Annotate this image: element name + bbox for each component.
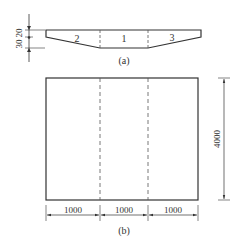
dim-width-3: 1000 (164, 205, 183, 215)
region-label-1: 1 (122, 33, 127, 44)
caption-a: (a) (118, 55, 129, 67)
dim-top-thickness: 20 (14, 28, 24, 38)
section-view: 2 1 3 20 30 (a) (14, 14, 201, 67)
dim-width-2: 1000 (115, 205, 134, 215)
region-label-2: 2 (75, 33, 80, 44)
diagram-canvas: 2 1 3 20 30 (a) 100 (0, 0, 240, 246)
caption-b: (b) (118, 225, 130, 237)
plan-outline (46, 78, 198, 200)
section-thickness-dimension: 20 30 (14, 14, 45, 62)
dim-bottom-thickness: 30 (14, 39, 24, 49)
plan-height-dimension: 4000 (212, 78, 230, 200)
region-label-3: 3 (170, 32, 175, 43)
dim-width-1: 1000 (64, 205, 83, 215)
dim-height: 4000 (212, 130, 222, 149)
plan-view: 1000 1000 1000 4000 (b) (46, 78, 230, 237)
plan-width-dimensions: 1000 1000 1000 (46, 205, 198, 221)
